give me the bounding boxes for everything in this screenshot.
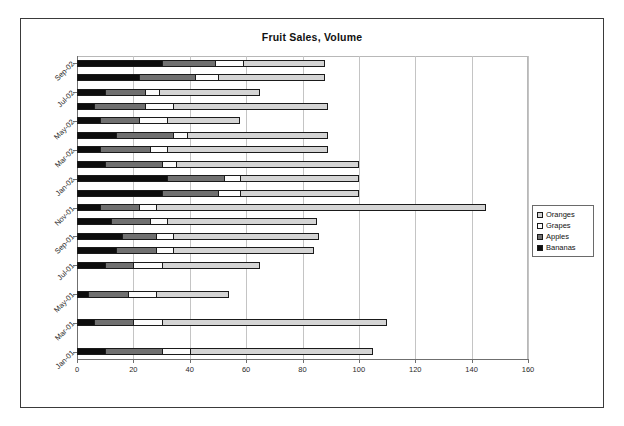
- bar-segment-bananas[interactable]: [77, 60, 162, 67]
- bar-segment-bananas[interactable]: [77, 117, 100, 124]
- bar-segment-grapes[interactable]: [139, 117, 167, 124]
- bar-row[interactable]: [77, 291, 229, 298]
- bar-row[interactable]: [77, 247, 314, 254]
- bar-row[interactable]: [77, 204, 486, 211]
- bar-segment-oranges[interactable]: [173, 233, 320, 240]
- bar-segment-oranges[interactable]: [173, 103, 328, 110]
- bar-row[interactable]: [77, 319, 387, 326]
- bar-segment-apples[interactable]: [100, 117, 139, 124]
- bar-segment-apples[interactable]: [111, 218, 150, 225]
- bar-segment-grapes[interactable]: [156, 247, 173, 254]
- bar-segment-apples[interactable]: [88, 291, 127, 298]
- bar-segment-oranges[interactable]: [162, 319, 388, 326]
- bar-segment-oranges[interactable]: [156, 204, 486, 211]
- bar-segment-grapes[interactable]: [224, 175, 241, 182]
- bar-segment-bananas[interactable]: [77, 233, 122, 240]
- bar-segment-bananas[interactable]: [77, 319, 94, 326]
- x-axis-tick: [77, 359, 78, 363]
- x-axis-tick-label: 40: [170, 365, 210, 374]
- bar-row[interactable]: [77, 117, 240, 124]
- bar-segment-bananas[interactable]: [77, 204, 100, 211]
- bar-segment-grapes[interactable]: [162, 348, 190, 355]
- bar-segment-grapes[interactable]: [215, 60, 243, 67]
- bar-segment-apples[interactable]: [100, 204, 139, 211]
- bar-segment-apples[interactable]: [105, 262, 133, 269]
- bar-row[interactable]: [77, 161, 359, 168]
- chart-legend[interactable]: OrangesGrapesApplesBananas: [532, 205, 594, 257]
- bar-segment-apples[interactable]: [167, 175, 223, 182]
- bar-row[interactable]: [77, 103, 328, 110]
- bar-segment-oranges[interactable]: [159, 89, 260, 96]
- bar-row[interactable]: [77, 348, 373, 355]
- bar-segment-oranges[interactable]: [187, 132, 328, 139]
- bar-segment-grapes[interactable]: [145, 103, 173, 110]
- bar-segment-bananas[interactable]: [77, 132, 116, 139]
- bar-segment-bananas[interactable]: [77, 161, 105, 168]
- bar-row[interactable]: [77, 190, 359, 197]
- bar-segment-oranges[interactable]: [218, 74, 325, 81]
- bar-segment-oranges[interactable]: [167, 218, 316, 225]
- bar-row[interactable]: [77, 60, 325, 67]
- bar-segment-bananas[interactable]: [77, 103, 94, 110]
- legend-item[interactable]: Bananas: [537, 242, 590, 253]
- bar-segment-apples[interactable]: [94, 319, 133, 326]
- bar-segment-bananas[interactable]: [77, 247, 116, 254]
- bar-segment-grapes[interactable]: [195, 74, 218, 81]
- bar-segment-apples[interactable]: [139, 74, 195, 81]
- bar-segment-apples[interactable]: [116, 132, 172, 139]
- bar-segment-bananas[interactable]: [77, 218, 111, 225]
- bar-row[interactable]: [77, 132, 328, 139]
- legend-item[interactable]: Apples: [537, 231, 590, 242]
- bar-segment-oranges[interactable]: [243, 60, 325, 67]
- bar-segment-apples[interactable]: [122, 233, 156, 240]
- bar-segment-grapes[interactable]: [156, 233, 173, 240]
- bar-segment-bananas[interactable]: [77, 74, 139, 81]
- bar-segment-apples[interactable]: [100, 146, 151, 153]
- bar-row[interactable]: [77, 74, 325, 81]
- bar-segment-bananas[interactable]: [77, 146, 100, 153]
- bar-segment-oranges[interactable]: [156, 291, 229, 298]
- bar-segment-oranges[interactable]: [240, 175, 358, 182]
- legend-item[interactable]: Grapes: [537, 220, 590, 231]
- bar-segment-oranges[interactable]: [167, 146, 328, 153]
- bar-segment-bananas[interactable]: [77, 190, 162, 197]
- bar-segment-grapes[interactable]: [150, 146, 167, 153]
- bar-segment-oranges[interactable]: [162, 262, 261, 269]
- bar-segment-apples[interactable]: [162, 60, 216, 67]
- bar-segment-bananas[interactable]: [77, 291, 88, 298]
- bar-segment-oranges[interactable]: [190, 348, 373, 355]
- bar-row[interactable]: [77, 146, 328, 153]
- bar-segment-grapes[interactable]: [133, 319, 161, 326]
- legend-key-icon: [537, 245, 543, 251]
- bar-segment-bananas[interactable]: [77, 262, 105, 269]
- bar-segment-apples[interactable]: [105, 348, 161, 355]
- bar-segment-grapes[interactable]: [218, 190, 241, 197]
- bar-segment-grapes[interactable]: [133, 262, 161, 269]
- bar-segment-oranges[interactable]: [167, 117, 240, 124]
- bar-segment-apples[interactable]: [94, 103, 145, 110]
- bar-segment-apples[interactable]: [162, 190, 218, 197]
- bar-segment-bananas[interactable]: [77, 89, 105, 96]
- bar-segment-apples[interactable]: [105, 161, 161, 168]
- bar-row[interactable]: [77, 218, 317, 225]
- bar-row[interactable]: [77, 175, 359, 182]
- bar-segment-oranges[interactable]: [240, 190, 358, 197]
- bar-segment-grapes[interactable]: [145, 89, 159, 96]
- bar-segment-bananas[interactable]: [77, 348, 105, 355]
- bar-segment-grapes[interactable]: [150, 218, 167, 225]
- bar-row[interactable]: [77, 262, 260, 269]
- bar-segment-oranges[interactable]: [176, 161, 359, 168]
- bar-segment-grapes[interactable]: [139, 204, 156, 211]
- legend-item-label: Apples: [546, 232, 569, 241]
- bar-segment-apples[interactable]: [116, 247, 155, 254]
- legend-item[interactable]: Oranges: [537, 209, 590, 220]
- bar-segment-oranges[interactable]: [173, 247, 314, 254]
- bar-segment-grapes[interactable]: [128, 291, 156, 298]
- bar-segment-grapes[interactable]: [173, 132, 187, 139]
- bar-row[interactable]: [77, 89, 260, 96]
- legend-item-label: Bananas: [546, 243, 576, 252]
- bar-segment-bananas[interactable]: [77, 175, 167, 182]
- bar-segment-apples[interactable]: [105, 89, 144, 96]
- bar-segment-grapes[interactable]: [162, 161, 176, 168]
- bar-row[interactable]: [77, 233, 319, 240]
